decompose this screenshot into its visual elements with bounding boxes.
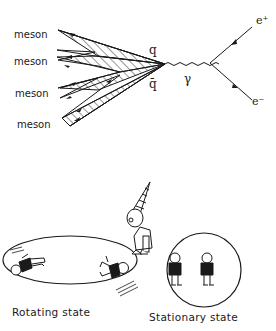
positron-arrow (231, 39, 237, 45)
meson-label-1: meson (14, 29, 48, 41)
photon-label: γ (184, 73, 191, 86)
meson-label-3: meson (15, 88, 49, 100)
diagram-canvas: meson meson meson meson q q̄ γ e⁺ e⁻ Rot… (0, 0, 276, 331)
positron-label: e⁺ (256, 14, 268, 27)
meson-label-4: meson (17, 119, 51, 131)
stationary-figure-2 (201, 253, 214, 285)
clown-figure (127, 182, 152, 254)
antiquark-label: q̄ (149, 78, 157, 91)
lepton-lines (210, 27, 252, 100)
rotating-figure-1 (11, 254, 45, 275)
rotating-state-caption: Rotating state (12, 306, 90, 318)
electron-label: e⁻ (252, 95, 264, 108)
stationary-state-caption: Stationary state (149, 311, 238, 323)
quark-label: q (149, 44, 157, 57)
diagram-drawing (0, 0, 276, 331)
meson-label-2: meson (14, 56, 48, 68)
stationary-figure-1 (169, 253, 182, 285)
